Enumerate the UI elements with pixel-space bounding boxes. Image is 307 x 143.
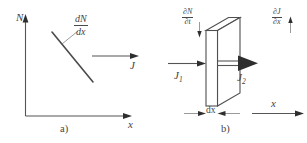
flux-out-label: J2: [237, 72, 246, 86]
figure-drawing: [0, 0, 307, 143]
slab-side-face: [218, 18, 241, 107]
flux-divergence-numerator: ∂J: [272, 8, 282, 16]
panel-a-caption: a): [60, 124, 68, 135]
panel-b-caption: b): [221, 124, 230, 135]
rate-of-change-numerator: ∂N: [182, 8, 193, 16]
panel-a-y-axis-label: N: [16, 12, 23, 23]
flux-in-arrow-head: [197, 61, 206, 67]
slab-thickness-label: dx: [206, 106, 216, 116]
panel-a-flux-label: J: [130, 60, 135, 71]
panel-a-gradient-numerator: dN: [74, 14, 88, 25]
panel-a-x-axis-label: x: [128, 119, 133, 130]
flux-divergence-label: ∂J ∂x: [272, 8, 282, 27]
flux-in-subscript: 1: [179, 75, 183, 84]
thickness-arrow-right: [218, 111, 226, 116]
panel-b-group: [168, 17, 304, 117]
panel-b-x-axis-arrowhead: [295, 111, 304, 117]
panel-a-concentration-line: [52, 32, 93, 82]
divergence-arrow-head: [288, 17, 292, 24]
rate-of-change-label: ∂N ∂t: [182, 8, 193, 27]
flux-out-subscript: 2: [242, 77, 246, 86]
figure-container: N x dN dx J a) ∂N ∂t ∂J ∂x J1 J2 dx x b): [0, 0, 307, 143]
panel-a-gradient-denominator: dx: [74, 27, 88, 38]
rate-arrow-head: [197, 31, 201, 38]
thickness-arrow-left: [198, 111, 206, 116]
panel-b-x-axis-label: x: [271, 98, 276, 109]
panel-a-gradient-label: dN dx: [74, 14, 88, 37]
flux-divergence-denominator: ∂x: [272, 18, 282, 26]
panel-a-y-axis-arrowhead: [23, 14, 29, 23]
flux-in-label: J1: [174, 70, 183, 84]
slab-front-face: [206, 31, 218, 107]
rate-of-change-denominator: ∂t: [182, 18, 193, 26]
flux-out-arrow-head: [238, 56, 258, 72]
